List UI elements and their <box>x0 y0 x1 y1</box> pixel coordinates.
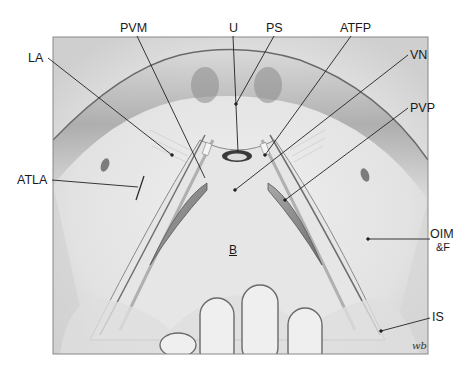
label-ps: PS <box>266 22 283 35</box>
label-b: B <box>229 243 237 257</box>
label-f: &F <box>436 242 450 253</box>
pelvic-floor-illustration: LA PVM U PS ATFP VN PVP ATLA OIM &F IS B… <box>0 0 471 367</box>
label-atla: ATLA <box>17 174 47 187</box>
label-oim: OIM <box>430 228 454 241</box>
label-la: LA <box>28 52 43 65</box>
label-atfp: ATFP <box>340 22 371 35</box>
label-u: U <box>229 22 238 35</box>
label-vn: VN <box>410 49 427 62</box>
label-is: IS <box>432 311 444 324</box>
label-pvp: PVP <box>410 102 435 115</box>
label-pvm: PVM <box>120 22 147 35</box>
illustration-svg <box>0 0 471 367</box>
artist-signature: wb <box>412 340 427 351</box>
